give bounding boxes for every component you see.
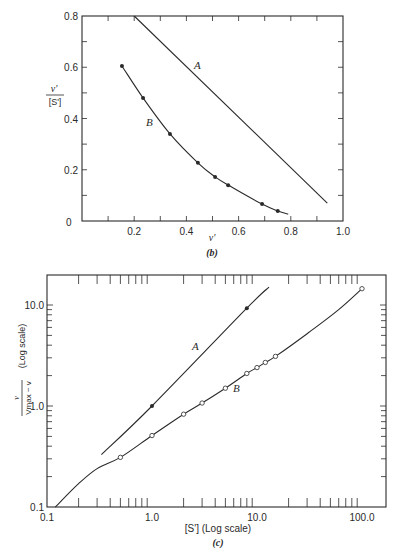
- data-point: [168, 132, 172, 136]
- chart-c-y-label: v Vmax − v (Log scale): [12, 324, 33, 416]
- data-point-filled: [150, 404, 154, 408]
- x-tick-label: 0.2: [127, 226, 141, 237]
- chart-b-x-label: v': [209, 232, 216, 243]
- data-point-filled: [245, 306, 249, 310]
- series-line-a: [101, 287, 269, 454]
- data-point-open: [245, 371, 249, 375]
- y-tick-label: 0.8: [64, 11, 78, 22]
- data-point: [196, 161, 200, 165]
- chart-b-plot-border: [82, 16, 343, 221]
- chart-b-ticks: [82, 16, 343, 221]
- y-tick-label: 10.0: [25, 300, 45, 311]
- x-tick-label: 0.8: [284, 226, 298, 237]
- chart-b-curve-b-label: B: [146, 116, 153, 128]
- y-tick-label: 0.4: [64, 114, 78, 125]
- chart-c-x-label: [S'] (Log scale): [185, 523, 251, 534]
- data-point-open: [360, 287, 364, 291]
- series-line-a: [134, 16, 327, 203]
- x-tick-label: 0.1: [40, 512, 54, 523]
- chart-b-y-label-denominator: [S']: [49, 97, 62, 107]
- series-line-b: [55, 289, 362, 507]
- x-tick-label: 1.0: [336, 226, 350, 237]
- data-point: [141, 96, 145, 100]
- chart-b-y-label-numerator: v': [51, 83, 58, 94]
- chart-b-caption: (b): [206, 247, 218, 259]
- chart-c-y-label-denominator: Vmax − v: [24, 381, 33, 415]
- chart-b-frame: [82, 16, 343, 221]
- data-point-open: [273, 354, 277, 358]
- x-tick-label: 10.0: [247, 512, 267, 523]
- data-point-open: [255, 365, 259, 369]
- y-tick-label: 0.2: [64, 165, 78, 176]
- chart-c-curve-b-label: B: [233, 382, 240, 394]
- data-point-open: [200, 401, 204, 405]
- x-tick-label: 0.4: [179, 226, 193, 237]
- chart-c-plot-border: [47, 275, 386, 507]
- chart-b-origin-label: 0: [66, 217, 72, 228]
- x-tick-label: 1.0: [145, 512, 159, 523]
- data-point-open: [150, 433, 154, 437]
- chart-b-tick-labels: 0.20.40.60.81.00.20.40.60.8: [64, 11, 350, 237]
- chart-c-y-label-scale: (Log scale): [17, 324, 27, 369]
- data-point-open: [223, 386, 227, 390]
- chart-c-caption: (c): [212, 537, 223, 549]
- x-tick-label: 100.0: [349, 512, 374, 523]
- chart-c-curve-a-label: A: [191, 340, 199, 352]
- x-tick-label: 0.6: [232, 226, 246, 237]
- chart-c-ticks: [47, 275, 386, 507]
- figure: 0.20.40.60.81.00.20.40.60.8 0 A B v' [S'…: [0, 0, 395, 555]
- chart-b-curve-a-label: A: [193, 59, 201, 71]
- chart-c-series: [55, 287, 364, 507]
- data-point-open: [181, 412, 185, 416]
- data-point: [226, 183, 230, 187]
- series-line-b: [122, 66, 288, 214]
- chart-c-frame: [47, 275, 386, 507]
- chart-b-lineweaver-burk-eadie-plot: 0.20.40.60.81.00.20.40.60.8 0 A B v' [S'…: [46, 11, 350, 259]
- chart-c-y-label-numerator: v: [12, 396, 21, 400]
- y-tick-label: 0.6: [64, 62, 78, 73]
- y-tick-label: 0.1: [30, 502, 44, 513]
- data-point: [276, 209, 280, 213]
- data-point-open: [263, 360, 267, 364]
- data-point: [213, 175, 217, 179]
- chart-c-tick-labels: 0.11.010.0100.00.11.010.0: [25, 300, 375, 523]
- data-point: [260, 202, 264, 206]
- data-point: [120, 64, 124, 68]
- chart-c-log-log-plot: 0.11.010.0100.00.11.010.0 A B v Vmax − v…: [12, 275, 386, 549]
- data-point-open: [118, 455, 122, 459]
